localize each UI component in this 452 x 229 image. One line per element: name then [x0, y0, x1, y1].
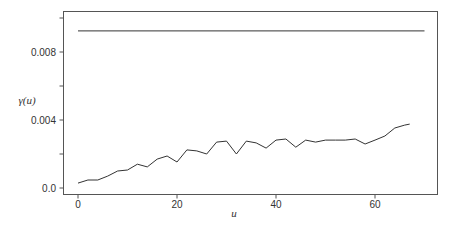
- y-tick-label: 0.0: [42, 183, 56, 194]
- variogram-chart: 0204060 0.00.0040.008 u γ(u): [0, 0, 452, 229]
- y-tick-label: 0.004: [31, 115, 56, 126]
- x-tick-label: 40: [270, 199, 282, 210]
- y-tick-label: 0.008: [31, 47, 56, 58]
- plot-frame: [64, 12, 438, 195]
- x-tick-label: 60: [369, 199, 381, 210]
- variogram-line: [78, 124, 410, 183]
- x-tick-label: 0: [75, 199, 81, 210]
- x-tick-label: 20: [171, 199, 183, 210]
- x-axis-label: u: [231, 207, 237, 219]
- y-axis: 0.00.0040.008: [31, 18, 64, 194]
- y-axis-label: γ(u): [18, 94, 35, 107]
- x-axis: 0204060: [75, 195, 381, 211]
